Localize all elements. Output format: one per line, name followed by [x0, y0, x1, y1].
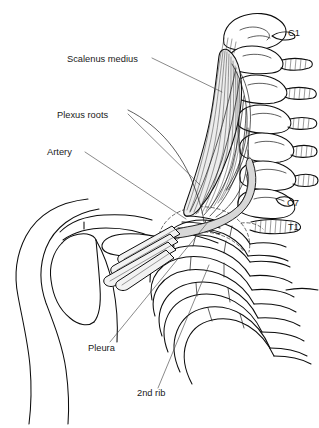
anatomy-figure: Scalenus medius Plexus roots Artery Pleu… — [0, 0, 319, 428]
anatomy-illustration: Scalenus medius Plexus roots Artery Pleu… — [0, 0, 319, 428]
label-artery: Artery — [47, 147, 72, 157]
label-c1: C1 — [288, 28, 300, 38]
label-pleura: Pleura — [88, 343, 116, 353]
label-t1: T1 — [288, 222, 299, 232]
label-second-rib: 2nd rib — [137, 388, 165, 398]
label-scalenus-medius: Scalenus medius — [67, 54, 138, 64]
label-c7: C7 — [287, 198, 299, 208]
label-plexus-roots: Plexus roots — [57, 110, 109, 120]
